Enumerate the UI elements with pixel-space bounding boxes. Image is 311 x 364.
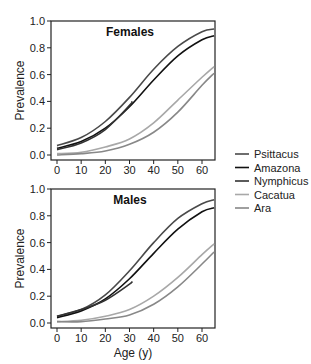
x-axis-label: Age (y) xyxy=(114,346,153,360)
y-tick-label: 1.0 xyxy=(30,15,45,27)
x-tick-label: 60 xyxy=(196,164,208,176)
series-line-amazona xyxy=(57,36,214,149)
y-tick-label: 0.8 xyxy=(30,210,45,222)
y-tick-label: 0.2 xyxy=(30,122,45,134)
y-tick-label: 0.0 xyxy=(30,317,45,329)
y-tick-label: 0.4 xyxy=(30,95,45,107)
legend: PsittacusAmazonaNymphicusCacatuaAra xyxy=(235,148,309,214)
males-panel: 0.00.20.40.60.81.00102030405060Prevalenc… xyxy=(13,183,215,360)
x-tick-label: 50 xyxy=(172,332,184,344)
y-tick-label: 0.8 xyxy=(30,42,45,54)
legend-label: Amazona xyxy=(254,162,301,174)
y-axis-label: Prevalence xyxy=(13,228,27,288)
x-tick-label: 0 xyxy=(54,332,60,344)
y-tick-label: 0.0 xyxy=(30,149,45,161)
panel-title: Males xyxy=(113,193,147,207)
panel-title: Females xyxy=(106,25,154,39)
x-tick-label: 0 xyxy=(54,164,60,176)
y-tick-label: 1.0 xyxy=(30,183,45,195)
x-tick-label: 30 xyxy=(123,332,135,344)
series-line-psittacus xyxy=(57,200,214,317)
y-tick-label: 0.6 xyxy=(30,69,45,81)
females-panel: 0.00.20.40.60.81.00102030405060Prevalenc… xyxy=(13,15,215,176)
series-line-cacatua xyxy=(57,67,214,154)
legend-label: Cacatua xyxy=(254,189,296,201)
legend-label: Nymphicus xyxy=(254,175,309,187)
y-tick-label: 0.4 xyxy=(30,263,45,275)
y-tick-label: 0.2 xyxy=(30,290,45,302)
x-tick-label: 10 xyxy=(75,332,87,344)
y-tick-label: 0.6 xyxy=(30,237,45,249)
x-tick-label: 60 xyxy=(196,332,208,344)
x-tick-label: 30 xyxy=(123,164,135,176)
legend-label: Ara xyxy=(254,202,272,214)
legend-label: Psittacus xyxy=(254,148,299,160)
x-tick-label: 20 xyxy=(99,164,111,176)
x-tick-label: 50 xyxy=(172,164,184,176)
y-axis-label: Prevalence xyxy=(13,60,27,120)
x-tick-label: 40 xyxy=(148,332,160,344)
prevalence-chart: 0.00.20.40.60.81.00102030405060Prevalenc… xyxy=(0,0,311,364)
x-tick-label: 40 xyxy=(148,164,160,176)
x-tick-label: 20 xyxy=(99,332,111,344)
x-tick-label: 10 xyxy=(75,164,87,176)
